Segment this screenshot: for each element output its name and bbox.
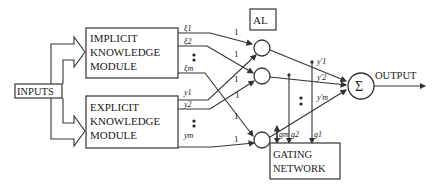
inputs-label: INPUTS: [17, 86, 54, 97]
implicit-line2: KNOWLEDGE: [90, 46, 161, 58]
weight-label: 1: [234, 49, 239, 59]
xim-label: ξm: [184, 64, 193, 73]
ellipsis-dot: [192, 124, 195, 127]
explicit-line2: KNOWLEDGE: [90, 115, 161, 127]
yprimem-label: y'm: [316, 93, 328, 102]
xi2-label: ξ2: [184, 37, 191, 46]
weight-label: 1: [235, 90, 240, 100]
ym-label: ym: [183, 131, 194, 140]
neuron-to-sum-wires: [270, 50, 346, 137]
xi1-label: ξ1: [184, 24, 191, 33]
implicit-line3: MODULE: [90, 60, 137, 72]
ellipsis-dot: [299, 96, 302, 99]
sigma-icon: Σ: [355, 79, 363, 94]
weight-label: 1: [234, 134, 239, 144]
gating-line1: GATING: [273, 149, 312, 160]
gm-label: gm: [279, 130, 289, 139]
neuron-1: [254, 40, 270, 56]
weight-label: 1: [234, 74, 239, 84]
yprime1-label: y'1: [316, 57, 326, 66]
implicit-knowledge-module: IMPLICIT KNOWLEDGE MODULE: [86, 28, 178, 78]
y1-label: y1: [183, 88, 192, 97]
explicit-knowledge-module: EXPLICIT KNOWLEDGE MODULE: [86, 96, 178, 148]
sum-node: Σ: [348, 73, 374, 99]
yprime2-label: y'2: [316, 73, 326, 82]
weight-label: 1: [234, 111, 239, 121]
ellipsis-dot: [299, 102, 302, 105]
g1-label: g1: [314, 130, 322, 139]
neuron-m: [254, 132, 270, 148]
gating-line2: NETWORK: [273, 163, 326, 174]
gating-network-block: GATING NETWORK: [270, 143, 340, 179]
al-label: AL: [253, 14, 268, 26]
g2-label: g2: [291, 130, 299, 139]
weight-label: 1: [234, 27, 239, 37]
y2-label: y2: [183, 100, 192, 109]
output-label: OUTPUT: [375, 70, 417, 81]
knowledge-modules-diagram: INPUTS IMPLICIT KNOWLEDGE MODULE EXPLICI…: [0, 0, 439, 187]
implicit-line1: IMPLICIT: [90, 32, 138, 44]
neuron-2: [254, 68, 270, 84]
ellipsis-dot: [192, 53, 195, 56]
al-block: AL: [250, 9, 276, 30]
inputs-block: INPUTS: [15, 84, 62, 98]
ellipsis-dot: [192, 58, 195, 61]
explicit-line1: EXPLICIT: [90, 101, 139, 113]
explicit-line3: MODULE: [90, 129, 137, 141]
ellipsis-dot: [192, 119, 195, 122]
